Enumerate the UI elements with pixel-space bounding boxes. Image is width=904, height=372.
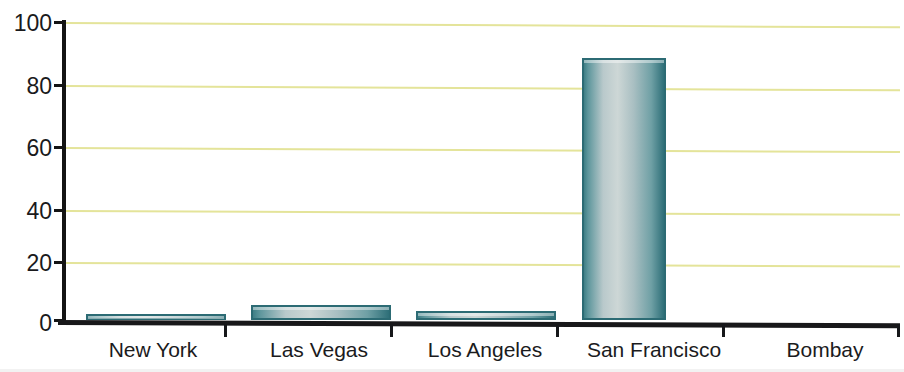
y-tick-mark-100 <box>54 21 64 24</box>
y-tick-mark-60 <box>54 146 64 149</box>
x-tick-mark-1 <box>224 324 227 337</box>
x-tick-mark-4 <box>722 324 725 337</box>
y-tick-label-80: 80 <box>0 73 52 100</box>
bar-new-york[interactable] <box>86 314 226 320</box>
y-tick-label-0: 0 <box>0 310 52 337</box>
bar-san-francisco[interactable] <box>582 58 666 320</box>
x-tick-label-san-francisco: San Francisco <box>574 338 734 362</box>
y-tick-mark-40 <box>54 209 64 212</box>
bar-slot-las-vegas <box>251 20 391 320</box>
y-tick-mark-20 <box>54 261 64 264</box>
x-tick-mark-2 <box>390 324 393 337</box>
x-tick-label-bombay: Bombay <box>750 338 900 362</box>
y-axis-labels: 100 80 60 40 20 0 <box>0 22 52 324</box>
y-tick-label-60: 60 <box>0 135 52 162</box>
plot-area <box>66 22 900 322</box>
x-tick-label-los-angeles: Los Angeles <box>410 338 560 362</box>
bar-las-vegas[interactable] <box>251 305 391 320</box>
bar-series <box>66 22 900 322</box>
bar-slot-bombay <box>746 20 886 320</box>
y-tick-label-20: 20 <box>0 250 52 277</box>
y-tick-mark-80 <box>54 84 64 87</box>
chart-title-cropped <box>0 0 904 11</box>
x-tick-label-new-york: New York <box>78 338 228 362</box>
bar-slot-new-york <box>86 20 226 320</box>
x-tick-label-las-vegas: Las Vegas <box>244 338 394 362</box>
x-tick-mark-3 <box>556 324 559 337</box>
bar-chart: 100 80 60 40 20 0 <box>0 0 904 372</box>
y-tick-label-100: 100 <box>0 10 52 37</box>
bar-los-angeles[interactable] <box>416 311 556 320</box>
bar-slot-los-angeles <box>416 20 556 320</box>
x-tick-mark-5 <box>897 324 900 337</box>
bar-slot-san-francisco <box>582 20 666 320</box>
x-axis-tick-marks <box>66 324 900 338</box>
y-tick-label-40: 40 <box>0 198 52 225</box>
x-axis-labels: New York Las Vegas Los Angeles San Franc… <box>66 338 900 368</box>
